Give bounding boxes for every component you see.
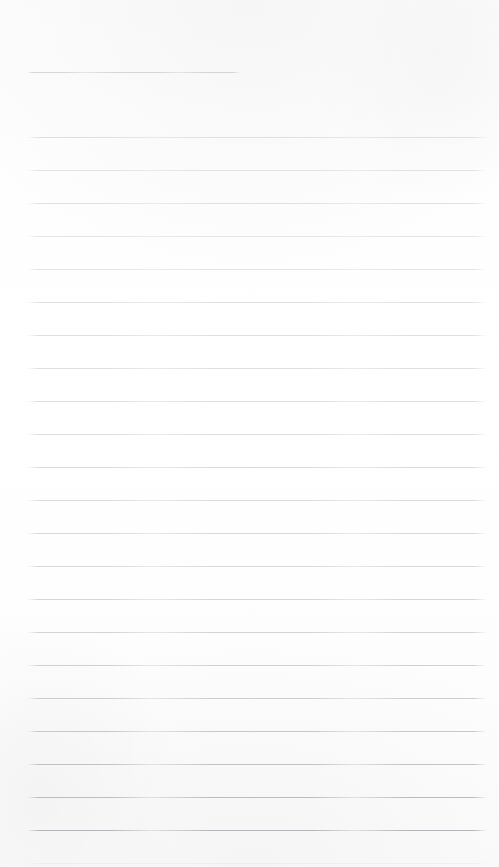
notebook-paper-sheet: [0, 0, 499, 867]
writing-area[interactable]: [0, 0, 499, 867]
